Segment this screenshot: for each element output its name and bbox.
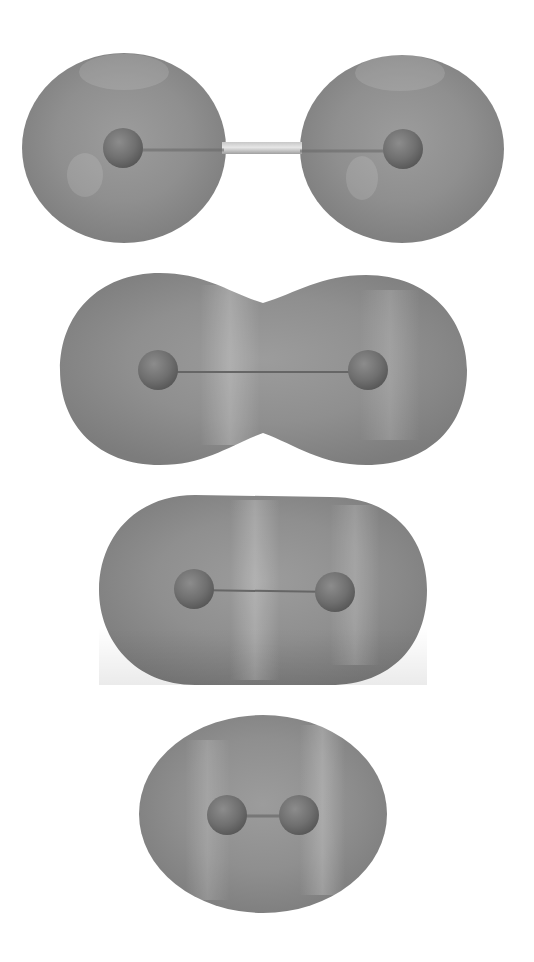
cloud-highlight-left-lower [67, 153, 103, 197]
panel-merging [60, 273, 467, 465]
atom-nucleus [103, 128, 143, 168]
cloud-highlight-right [355, 55, 445, 91]
cloud-highlight-right-lower [346, 156, 378, 200]
atom-nucleus [207, 795, 247, 835]
panel-bonded [99, 495, 427, 685]
electron-cloud-ellipsoid [139, 715, 387, 913]
atom-nucleus [348, 350, 388, 390]
atom-nucleus [174, 569, 214, 609]
atom-nucleus [315, 572, 355, 612]
cloud-highlight-left [79, 54, 169, 90]
atom-nucleus [279, 795, 319, 835]
bond-tube [222, 142, 302, 154]
molecular-orbital-figure [0, 0, 534, 962]
cloud-highlight-band [200, 285, 260, 445]
atom-nucleus [138, 350, 178, 390]
atom-nucleus [383, 129, 423, 169]
panel-compressed [139, 715, 387, 913]
panel-separated [22, 53, 504, 243]
